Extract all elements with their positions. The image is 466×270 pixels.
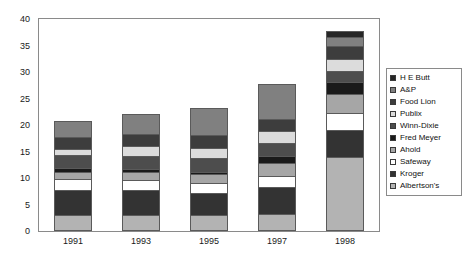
y-axis-tick-label: 20 <box>20 121 30 130</box>
legend-item-albertson-s[interactable]: Albertson's <box>390 180 459 192</box>
bar-segment-winn-dixie <box>54 155 92 168</box>
legend-swatch-fred-meyer <box>390 135 396 141</box>
bar-segment-kroger <box>190 193 228 215</box>
legend-item-safeway[interactable]: Safeway <box>390 156 459 168</box>
legend-swatch-safeway <box>390 159 396 165</box>
y-axis-tick-label: 25 <box>20 95 30 104</box>
bar-segment-winn-dixie <box>122 156 160 169</box>
bar-segment-albertson-s <box>190 215 228 231</box>
bar-segment-a-p <box>54 121 92 137</box>
bar-segment-albertson-s <box>258 214 296 231</box>
legend-item-label: Kroger <box>400 169 424 179</box>
y-axis-tick-label: 30 <box>20 68 30 77</box>
legend-item-fred-meyer[interactable]: Fred Meyer <box>390 132 459 144</box>
legend: H E ButtA&PFood LionPublixWinn-DixieFred… <box>386 68 462 196</box>
legend-swatch-h-e-butt <box>390 75 396 81</box>
legend-item-label: Food Lion <box>400 97 436 107</box>
legend-item-ahold[interactable]: Ahold <box>390 144 459 156</box>
bar-segment-kroger <box>326 130 364 157</box>
bar-segment-a-p <box>258 84 296 120</box>
bar-segment-publix <box>258 131 296 142</box>
bar-segment-albertson-s <box>326 157 364 231</box>
bar-segment-fred-meyer <box>190 172 228 175</box>
bar-1991 <box>54 121 92 231</box>
legend-swatch-food-lion <box>390 99 396 105</box>
legend-swatch-kroger <box>390 171 396 177</box>
legend-swatch-publix <box>390 111 396 117</box>
legend-item-label: Ahold <box>400 145 420 155</box>
stacked-bar-chart: 0510152025303540 19911993199519971998 H … <box>0 0 466 270</box>
bar-segment-safeway <box>190 183 228 193</box>
x-axis-tick-label: 1997 <box>267 236 287 246</box>
bar-segment-ahold <box>54 172 92 179</box>
bar-segment-publix <box>190 148 228 158</box>
legend-item-label: Fred Meyer <box>400 133 441 143</box>
y-axis: 0510152025303540 <box>0 18 34 232</box>
legend-swatch-a-and-p <box>390 87 396 93</box>
bar-segment-food-lion <box>326 46 364 59</box>
legend-swatch-winn-dixie <box>390 123 396 129</box>
bars-layer <box>39 19 379 231</box>
bar-segment-ahold <box>190 174 228 182</box>
legend-item-label: Publix <box>400 109 422 119</box>
y-axis-tick-label: 10 <box>20 174 30 183</box>
bar-segment-albertson-s <box>54 215 92 231</box>
legend-item-label: H E Butt <box>400 73 430 83</box>
bar-segment-albertson-s <box>122 215 160 231</box>
bar-segment-kroger <box>54 190 92 215</box>
bar-segment-winn-dixie <box>258 143 296 157</box>
bar-segment-food-lion <box>190 135 228 148</box>
legend-item-food-lion[interactable]: Food Lion <box>390 96 459 108</box>
x-axis: 19911993199519971998 <box>38 236 380 252</box>
bar-segment-fred-meyer <box>54 168 92 171</box>
x-axis-tick-label: 1995 <box>199 236 219 246</box>
y-axis-tick-label: 5 <box>25 201 30 210</box>
bar-segment-publix <box>122 146 160 156</box>
bar-segment-food-lion <box>122 134 160 146</box>
bar-segment-safeway <box>326 113 364 130</box>
bar-segment-food-lion <box>54 137 92 149</box>
y-axis-tick-label: 35 <box>20 42 30 51</box>
bar-segment-a-p <box>326 37 364 46</box>
bar-segment-publix <box>54 149 92 155</box>
bar-segment-food-lion <box>258 119 296 131</box>
bar-segment-fred-meyer <box>326 82 364 95</box>
legend-item-h-e-butt[interactable]: H E Butt <box>390 72 459 84</box>
bar-segment-ahold <box>258 163 296 177</box>
bar-segment-safeway <box>258 176 296 187</box>
bar-1998 <box>326 31 364 231</box>
legend-item-winn-dixie[interactable]: Winn-Dixie <box>390 120 459 132</box>
bar-segment-h-e-butt <box>326 31 364 37</box>
bar-segment-winn-dixie <box>190 158 228 172</box>
bar-segment-a-p <box>122 114 160 134</box>
bar-segment-safeway <box>122 180 160 191</box>
bar-segment-safeway <box>54 179 92 190</box>
y-axis-tick-label: 40 <box>20 15 30 24</box>
legend-item-label: Winn-Dixie <box>400 121 439 131</box>
legend-item-publix[interactable]: Publix <box>390 108 459 120</box>
bar-segment-a-p <box>190 108 228 136</box>
legend-item-label: Albertson's <box>400 181 439 191</box>
legend-item-kroger[interactable]: Kroger <box>390 168 459 180</box>
x-axis-tick-label: 1991 <box>63 236 83 246</box>
bar-segment-fred-meyer <box>122 169 160 172</box>
bar-segment-ahold <box>326 94 364 113</box>
bar-segment-fred-meyer <box>258 156 296 162</box>
y-axis-tick-label: 0 <box>25 227 30 236</box>
x-axis-tick-label: 1993 <box>131 236 151 246</box>
legend-item-a-p[interactable]: A&P <box>390 84 459 96</box>
x-axis-tick-label: 1998 <box>335 236 355 246</box>
bar-segment-kroger <box>258 187 296 214</box>
bar-segment-winn-dixie <box>326 71 364 82</box>
y-axis-tick-label: 15 <box>20 148 30 157</box>
bar-segment-publix <box>326 59 364 71</box>
legend-swatch-albertsons <box>390 183 396 189</box>
bar-segment-ahold <box>122 172 160 179</box>
legend-item-label: A&P <box>400 85 416 95</box>
legend-swatch-ahold <box>390 147 396 153</box>
legend-item-label: Safeway <box>400 157 431 167</box>
bar-1993 <box>122 114 160 231</box>
bar-1997 <box>258 84 296 231</box>
bar-segment-kroger <box>122 190 160 214</box>
bar-1995 <box>190 108 228 231</box>
